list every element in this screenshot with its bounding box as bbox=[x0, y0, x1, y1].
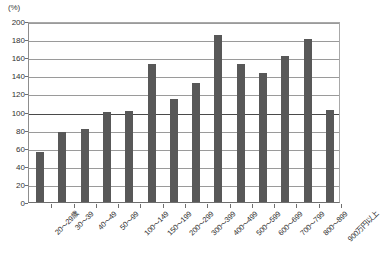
x-axis-tick-mark bbox=[163, 204, 164, 208]
bar bbox=[36, 152, 44, 202]
y-axis-tick-mark bbox=[25, 113, 28, 114]
y-axis-tick-mark bbox=[25, 203, 28, 204]
bar bbox=[237, 64, 245, 202]
y-axis-tick-label: 80 bbox=[1, 126, 25, 135]
x-axis-tick-mark bbox=[341, 204, 342, 208]
bar bbox=[192, 83, 200, 202]
x-axis-tick-label: 800〜899 bbox=[320, 208, 349, 237]
y-axis-tick-mark bbox=[25, 167, 28, 168]
y-axis-tick-label: 100 bbox=[1, 108, 25, 117]
x-axis-tick-mark bbox=[319, 204, 320, 208]
x-axis-tick-label: 30〜39 bbox=[72, 208, 96, 232]
x-axis-tick-mark bbox=[230, 204, 231, 208]
x-axis-tick-mark bbox=[274, 204, 275, 208]
y-axis-tick-label: 140 bbox=[1, 72, 25, 81]
y-axis-tick-mark bbox=[25, 131, 28, 132]
y-axis-tick-label: 0 bbox=[1, 199, 25, 208]
y-axis-tick-mark bbox=[25, 22, 28, 23]
bar bbox=[259, 73, 267, 202]
x-axis-tick-mark bbox=[296, 204, 297, 208]
bar bbox=[58, 132, 66, 202]
y-axis-tick-mark bbox=[25, 76, 28, 77]
x-axis-tick-label: 900万円以上 bbox=[344, 208, 379, 243]
bar bbox=[326, 110, 334, 202]
x-axis-tick-label: 700〜799 bbox=[297, 208, 326, 237]
x-axis-tick-label: 400〜499 bbox=[230, 208, 259, 237]
y-axis-tick-label: 180 bbox=[1, 36, 25, 45]
bar bbox=[81, 129, 89, 202]
bar bbox=[304, 39, 312, 202]
y-axis-tick-label: 120 bbox=[1, 90, 25, 99]
y-axis-tick-mark bbox=[25, 149, 28, 150]
x-axis-tick-mark bbox=[185, 204, 186, 208]
x-axis-tick-mark bbox=[118, 204, 119, 208]
x-axis-tick-label: 100〜149 bbox=[141, 208, 170, 237]
y-axis-tick-label: 160 bbox=[1, 54, 25, 63]
x-axis-tick-mark bbox=[51, 204, 52, 208]
y-axis-tick-label: 200 bbox=[1, 18, 25, 27]
y-axis-tick-mark bbox=[25, 40, 28, 41]
x-axis-tick-label: 20〜29歳 bbox=[52, 208, 81, 237]
bar bbox=[214, 35, 222, 202]
x-axis-tick-label: 40〜49 bbox=[94, 208, 118, 232]
y-axis-tick-label: 40 bbox=[1, 162, 25, 171]
x-axis-tick-label: 500〜599 bbox=[253, 208, 282, 237]
x-axis-tick-label: 300〜399 bbox=[208, 208, 237, 237]
y-axis-tick-label: 60 bbox=[1, 144, 25, 153]
x-axis-tick-label: 200〜299 bbox=[186, 208, 215, 237]
plot-area bbox=[28, 22, 340, 203]
x-axis-tick-mark bbox=[207, 204, 208, 208]
x-axis-tick-mark bbox=[252, 204, 253, 208]
x-axis-tick-label: 600〜699 bbox=[275, 208, 304, 237]
bar bbox=[148, 64, 156, 202]
y-axis-tick-mark bbox=[25, 185, 28, 186]
y-axis-tick-label: 20 bbox=[1, 180, 25, 189]
bar bbox=[281, 56, 289, 202]
bar bbox=[125, 111, 133, 202]
bar bbox=[170, 99, 178, 202]
bar-series bbox=[29, 23, 339, 202]
x-axis-tick-label: 50〜99 bbox=[117, 208, 141, 232]
x-axis-tick-mark bbox=[74, 204, 75, 208]
x-axis-tick-mark bbox=[140, 204, 141, 208]
y-axis-tick-mark bbox=[25, 58, 28, 59]
y-axis-tick-mark bbox=[25, 94, 28, 95]
x-axis-tick-label: 150〜199 bbox=[164, 208, 193, 237]
bar bbox=[103, 112, 111, 202]
y-axis-unit-label: (%) bbox=[8, 3, 20, 12]
x-axis-tick-mark bbox=[96, 204, 97, 208]
